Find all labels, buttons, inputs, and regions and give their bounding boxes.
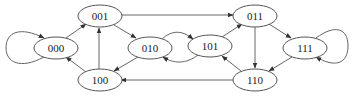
- node-label-000: 000: [48, 42, 65, 54]
- edge-101-011: [222, 24, 242, 37]
- state-transition-diagram: 000 001 010 100 101 011 111 110: [0, 0, 355, 96]
- nodes: 000 001 010 100 101 011 111 110: [34, 5, 327, 91]
- node-111: 111: [283, 37, 327, 59]
- node-110: 110: [233, 69, 277, 91]
- node-011: 011: [233, 5, 277, 27]
- edge-111-110: [269, 57, 292, 71]
- edge-010-101: [162, 32, 193, 39]
- node-label-001: 001: [92, 10, 109, 22]
- edge-000-001: [66, 24, 86, 38]
- node-101: 101: [188, 35, 232, 57]
- node-100: 100: [78, 69, 122, 91]
- edge-100-000: [66, 57, 86, 72]
- node-label-010: 010: [142, 42, 159, 54]
- node-000: 000: [34, 37, 78, 59]
- node-label-011: 011: [247, 10, 263, 22]
- edge-011-111: [269, 24, 291, 38]
- edge-101-010: [163, 55, 198, 62]
- node-label-101: 101: [202, 40, 219, 52]
- node-label-100: 100: [92, 74, 109, 86]
- edge-110-101: [222, 56, 241, 71]
- node-label-111: 111: [297, 42, 313, 54]
- edge-010-100: [114, 57, 138, 71]
- node-label-110: 110: [247, 74, 264, 86]
- edge-001-010: [114, 25, 136, 38]
- node-001: 001: [78, 5, 122, 27]
- node-010: 010: [128, 37, 172, 59]
